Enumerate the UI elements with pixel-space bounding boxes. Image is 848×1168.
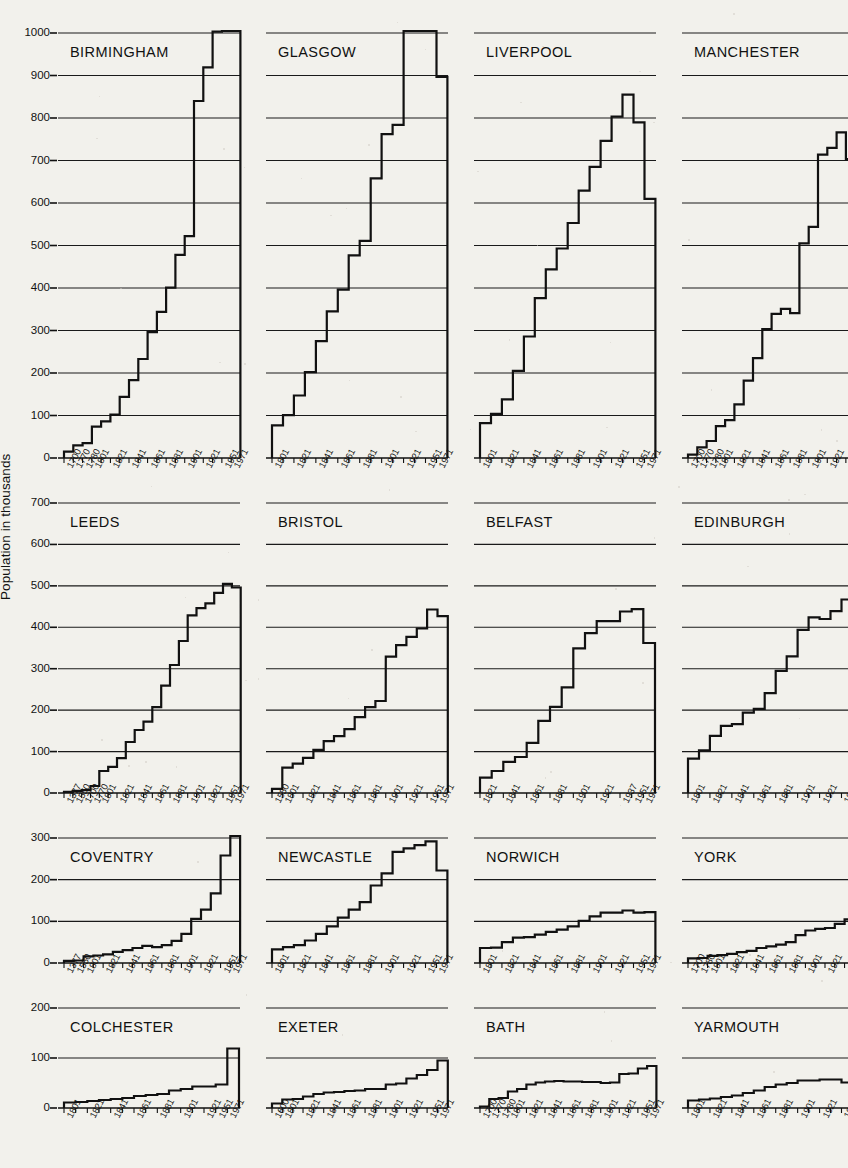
y-axis-tick-label: 300 <box>6 662 50 674</box>
paper-speck <box>101 739 103 741</box>
paper-speck <box>804 494 806 495</box>
y-axis-tick-label: 200 <box>6 1001 50 1013</box>
paper-speck <box>789 533 790 535</box>
paper-speck <box>653 1105 655 1106</box>
step-series-edinburgh <box>688 600 848 794</box>
paper-speck <box>477 171 479 172</box>
paper-speck <box>368 144 370 146</box>
panel-title-glasgow: GLASGOW <box>278 44 356 60</box>
paper-speck <box>799 718 800 719</box>
paper-speck <box>821 980 823 982</box>
paper-speck <box>545 777 546 779</box>
step-series-leeds <box>64 584 241 793</box>
paper-speck <box>128 765 130 767</box>
paper-speck <box>174 456 176 458</box>
y-axis-tick-label: 100 <box>6 745 50 757</box>
paper-speck <box>537 245 538 246</box>
paper-speck <box>711 389 712 391</box>
panel-title-norwich: NORWICH <box>486 849 560 865</box>
paper-speck <box>244 363 246 365</box>
paper-speck <box>620 805 621 806</box>
paper-speck <box>346 208 347 209</box>
paper-speck <box>185 597 186 598</box>
panel-title-bristol: BRISTOL <box>278 514 343 530</box>
panel-title-exeter: EXETER <box>278 1019 339 1035</box>
paper-speck <box>821 429 822 431</box>
step-series-bristol <box>272 610 448 794</box>
paper-speck <box>349 380 350 381</box>
y-axis-tick-label: 800 <box>6 111 50 123</box>
paper-speck <box>301 178 302 179</box>
paper-speck <box>642 682 644 684</box>
paper-speck <box>330 215 332 216</box>
population-small-multiples-figure: Population in thousands 0100200300400500… <box>0 0 848 1168</box>
panel-title-leeds: LEEDS <box>70 514 120 530</box>
y-axis-tick-label: 300 <box>6 324 50 336</box>
paper-speck <box>520 102 522 103</box>
paper-speck <box>197 861 199 863</box>
paper-speck <box>502 950 503 952</box>
paper-speck <box>139 52 141 53</box>
y-axis-tick-label: 900 <box>6 69 50 81</box>
y-axis-tick-label: 0 <box>6 1101 50 1113</box>
paper-speck <box>670 962 672 963</box>
paper-speck <box>342 1034 343 1036</box>
y-axis-tick-label: 100 <box>6 914 50 926</box>
paper-speck <box>228 552 229 553</box>
paper-speck <box>348 698 349 699</box>
y-axis-tick-label: 500 <box>6 579 50 591</box>
panel-title-liverpool: LIVERPOOL <box>486 44 572 60</box>
paper-speck <box>611 1040 612 1042</box>
y-axis-tick-label: 0 <box>6 451 50 463</box>
paper-speck <box>99 96 100 97</box>
y-axis-tick-label: 600 <box>6 537 50 549</box>
step-series-liverpool <box>480 95 655 458</box>
paper-speck <box>245 680 247 681</box>
y-axis-tick-label: 700 <box>6 154 50 166</box>
paper-speck <box>773 1071 775 1073</box>
paper-speck <box>747 566 749 567</box>
y-axis-tick-label: 100 <box>6 1051 50 1063</box>
step-series-manchester <box>688 132 848 458</box>
panel-title-bath: BATH <box>486 1019 525 1035</box>
y-axis-tick-label: 0 <box>6 956 50 968</box>
y-axis-tick-label: 1000 <box>6 26 50 38</box>
panel-title-colchester: COLCHESTER <box>70 1019 174 1035</box>
paper-speck <box>733 13 735 15</box>
paper-speck <box>145 761 147 763</box>
paper-speck <box>615 588 617 590</box>
paper-speck <box>653 122 655 123</box>
panel-title-manchester: MANCHESTER <box>694 44 800 60</box>
y-axis-tick-label: 300 <box>6 831 50 843</box>
paper-speck <box>470 429 471 430</box>
y-axis-tick-label: 200 <box>6 366 50 378</box>
paper-speck <box>509 339 510 341</box>
paper-speck <box>397 22 398 23</box>
paper-speck <box>96 138 98 139</box>
paper-speck <box>371 649 373 651</box>
paper-speck <box>604 1011 605 1013</box>
paper-speck <box>749 954 751 956</box>
charts-svg <box>0 0 848 1168</box>
y-axis-tick-label: 100 <box>6 409 50 421</box>
y-axis-tick-label: 600 <box>6 196 50 208</box>
paper-speck <box>542 46 544 47</box>
paper-speck <box>678 486 680 488</box>
y-axis-tick-label: 200 <box>6 703 50 715</box>
panel-title-edinburgh: EDINBURGH <box>694 514 785 530</box>
panel-title-belfast: BELFAST <box>486 514 553 530</box>
y-axis-tick-label: 200 <box>6 873 50 885</box>
paper-speck <box>151 486 152 487</box>
paper-speck <box>836 440 838 442</box>
y-axis-tick-label: 400 <box>6 281 50 293</box>
panel-title-york: YORK <box>694 849 737 865</box>
paper-speck <box>120 288 122 289</box>
y-axis-tick-label: 0 <box>6 786 50 798</box>
paper-speck <box>258 599 259 601</box>
paper-speck <box>246 994 247 996</box>
paper-speck <box>389 489 390 491</box>
paper-speck <box>654 537 655 539</box>
paper-speck <box>550 771 552 773</box>
paper-speck <box>258 678 259 680</box>
step-series-belfast <box>480 609 655 793</box>
